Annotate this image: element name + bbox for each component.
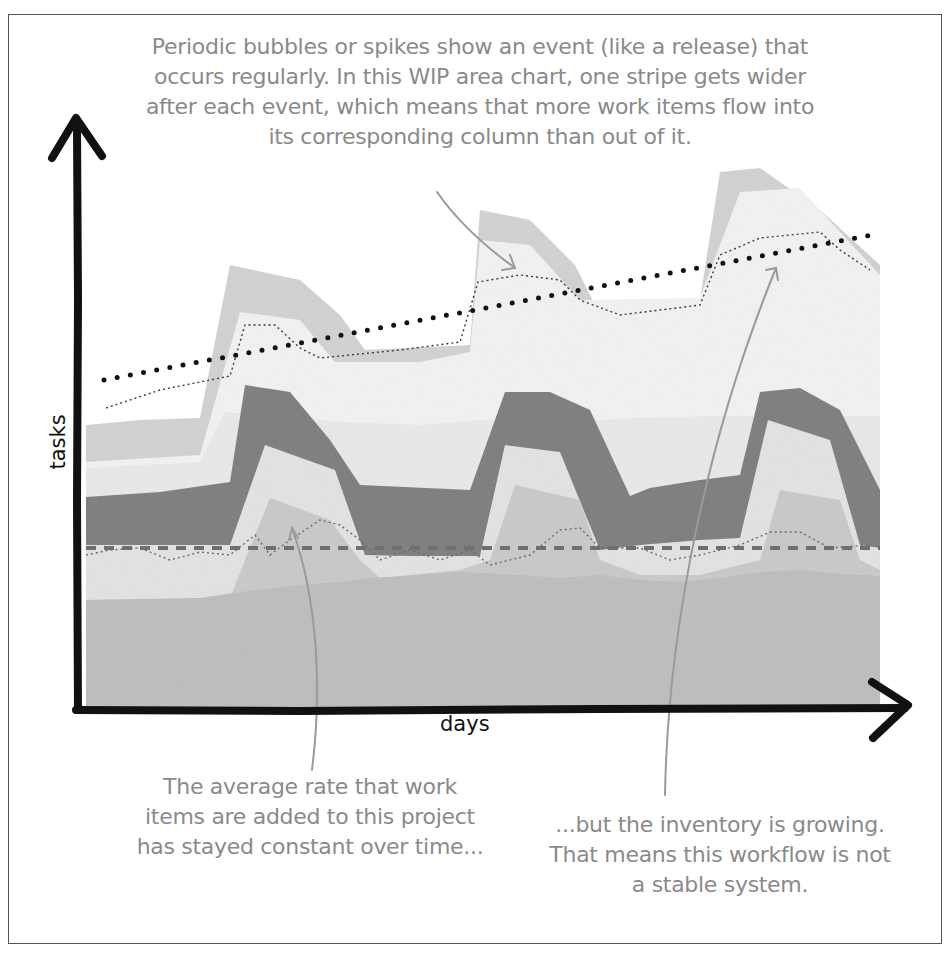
annotation-line: The average rate that work	[100, 772, 520, 802]
x-axis	[76, 708, 905, 711]
annotation-line: ...but the inventory is growing.	[500, 810, 940, 840]
annotation-inventory-growing: ...but the inventory is growing. That me…	[500, 810, 940, 900]
stacked-bands	[86, 168, 880, 710]
annotation-periodic-spikes: Periodic bubbles or spikes show an event…	[90, 32, 870, 152]
annotation-average-rate: The average rate that work items are add…	[100, 772, 520, 862]
annotation-line: occurs regularly. In this WIP area chart…	[90, 62, 870, 92]
y-axis	[77, 128, 78, 710]
annotation-line: has stayed constant over time...	[100, 832, 520, 862]
annotation-line: items are added to this project	[100, 802, 520, 832]
annotation-line: its corresponding column than out of it.	[90, 122, 870, 152]
annotation-line: Periodic bubbles or spikes show an event…	[90, 32, 870, 62]
annotation-line: after each event, which means that more …	[90, 92, 870, 122]
x-axis-label: days	[440, 712, 490, 736]
annotation-line: That means this workflow is not	[500, 840, 940, 870]
y-axis-label: tasks	[46, 402, 70, 482]
annotation-line: a stable system.	[500, 870, 940, 900]
